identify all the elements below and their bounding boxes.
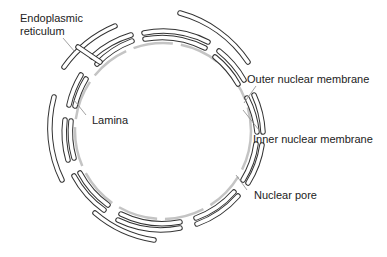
label-nuclear-pore: Nuclear pore	[254, 189, 317, 202]
nuclear-envelope-diagram: .mem { fill: none; stroke: #333; stroke-…	[0, 0, 387, 257]
er-label-line2: reticulum	[20, 25, 83, 38]
er-label-line1: Endoplasmic	[20, 12, 83, 25]
label-lamina: Lamina	[92, 114, 128, 127]
label-outer-nuclear-membrane: Outer nuclear membrane	[247, 73, 369, 86]
inner-nuclear-membrane	[70, 37, 257, 223]
label-endoplasmic-reticulum: Endoplasmic reticulum	[20, 12, 83, 38]
label-inner-nuclear-membrane: Inner nuclear membrane	[253, 133, 373, 146]
er-leader	[63, 38, 75, 52]
